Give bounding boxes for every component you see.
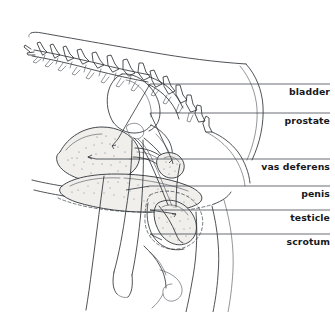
label-scrotum: scrotum: [287, 236, 330, 247]
label-bladder: bladder: [289, 86, 330, 97]
anatomy-figure: bladder prostate vas deferens penis test…: [0, 0, 335, 312]
label-penis: penis: [301, 188, 330, 199]
label-testicle: testicle: [290, 212, 330, 223]
label-prostate: prostate: [285, 115, 330, 126]
label-vas-deferens: vas deferens: [261, 161, 330, 172]
anatomy-illustration: bladder prostate vas deferens penis test…: [0, 0, 335, 312]
